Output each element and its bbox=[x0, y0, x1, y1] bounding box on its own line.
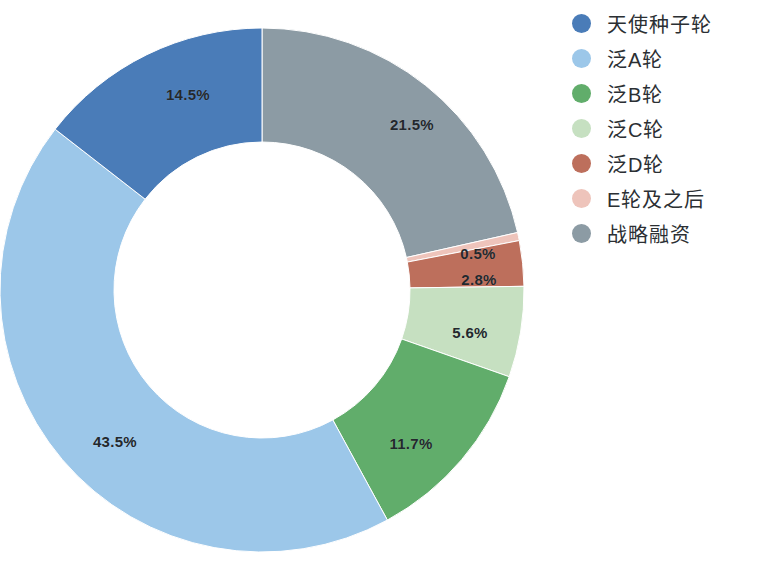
legend-color-swatch-icon bbox=[572, 189, 591, 208]
legend-item-label: 泛B轮 bbox=[607, 79, 663, 108]
donut-chart-plot-area: 21.5%0.5%2.8%5.6%11.7%43.5%14.5% bbox=[0, 0, 560, 578]
chart-legend: 天使种子轮泛A轮泛B轮泛C轮泛D轮E轮及之后战略融资 bbox=[572, 6, 769, 251]
legend-item[interactable]: E轮及之后 bbox=[572, 181, 769, 216]
slice-value-label: 21.5% bbox=[390, 116, 434, 133]
donut-slice[interactable] bbox=[262, 28, 518, 258]
donut-chart-figure: 21.5%0.5%2.8%5.6%11.7%43.5%14.5% 天使种子轮泛A… bbox=[0, 0, 769, 578]
donut-chart-svg bbox=[0, 0, 560, 578]
legend-item-label: 战略融资 bbox=[607, 219, 691, 248]
legend-item[interactable]: 天使种子轮 bbox=[572, 6, 769, 41]
legend-item[interactable]: 泛B轮 bbox=[572, 76, 769, 111]
legend-color-swatch-icon bbox=[572, 84, 591, 103]
legend-color-swatch-icon bbox=[572, 49, 591, 68]
slice-value-label: 5.6% bbox=[452, 324, 487, 341]
legend-color-swatch-icon bbox=[572, 119, 591, 138]
legend-color-swatch-icon bbox=[572, 224, 591, 243]
slice-value-label: 2.8% bbox=[461, 271, 496, 288]
legend-item[interactable]: 泛A轮 bbox=[572, 41, 769, 76]
legend-item[interactable]: 泛D轮 bbox=[572, 146, 769, 181]
legend-item[interactable]: 战略融资 bbox=[572, 216, 769, 251]
slice-value-label: 14.5% bbox=[166, 86, 210, 103]
donut-slice-group bbox=[0, 28, 524, 552]
legend-item-label: 天使种子轮 bbox=[607, 9, 712, 38]
legend-item-label: 泛A轮 bbox=[607, 44, 663, 73]
slice-value-label: 43.5% bbox=[93, 433, 137, 450]
legend-item-label: 泛D轮 bbox=[607, 149, 664, 178]
legend-item-label: E轮及之后 bbox=[607, 184, 705, 213]
legend-item-label: 泛C轮 bbox=[607, 114, 664, 143]
legend-color-swatch-icon bbox=[572, 154, 591, 173]
slice-value-label: 0.5% bbox=[460, 245, 495, 262]
legend-color-swatch-icon bbox=[572, 14, 591, 33]
slice-value-label: 11.7% bbox=[389, 435, 432, 452]
donut-slice[interactable] bbox=[0, 129, 387, 552]
legend-item[interactable]: 泛C轮 bbox=[572, 111, 769, 146]
